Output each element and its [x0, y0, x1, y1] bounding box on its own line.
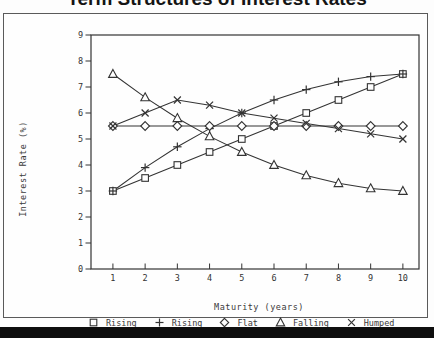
- svg-text:7: 7: [304, 273, 309, 283]
- svg-text:7: 7: [78, 82, 83, 92]
- svg-text:0: 0: [78, 264, 83, 274]
- line-chart-plot: 012345678912345678910: [0, 0, 434, 338]
- svg-text:8: 8: [78, 56, 83, 66]
- svg-text:2: 2: [143, 273, 148, 283]
- svg-text:5: 5: [78, 134, 83, 144]
- svg-text:9: 9: [368, 273, 373, 283]
- svg-text:1: 1: [110, 273, 115, 283]
- svg-text:6: 6: [271, 273, 276, 283]
- bottom-black-bar: [0, 327, 434, 338]
- svg-text:6: 6: [78, 108, 83, 118]
- svg-text:1: 1: [78, 238, 83, 248]
- svg-text:5: 5: [239, 273, 244, 283]
- svg-text:3: 3: [78, 186, 83, 196]
- svg-text:2: 2: [78, 212, 83, 222]
- svg-text:10: 10: [398, 273, 408, 283]
- svg-text:9: 9: [78, 30, 83, 40]
- svg-text:4: 4: [78, 160, 83, 170]
- svg-text:8: 8: [336, 273, 341, 283]
- svg-text:3: 3: [175, 273, 180, 283]
- svg-text:4: 4: [207, 273, 212, 283]
